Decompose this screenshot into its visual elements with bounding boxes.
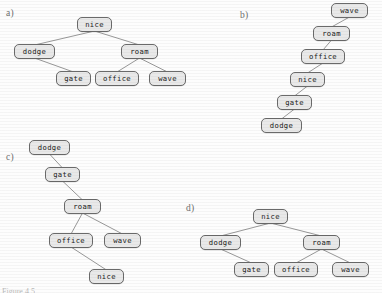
panel-label-c: c) xyxy=(6,152,14,162)
tree-node-a-gate: gate xyxy=(56,71,91,86)
tree-edge-c-office-nice xyxy=(71,247,107,270)
tree-edge-d-roam-wave xyxy=(322,249,351,263)
tree-node-d-gate: gate xyxy=(234,262,269,277)
tree-node-b-roam: roam xyxy=(313,26,350,41)
tree-edge-d-dodge-gate xyxy=(221,249,252,263)
panel-label-d: d) xyxy=(186,203,194,213)
tree-node-b-gate: gate xyxy=(277,95,312,110)
tree-node-c-dodge: dodge xyxy=(29,140,70,155)
tree-edge-c-roam-office xyxy=(71,213,83,234)
tree-node-a-nice: nice xyxy=(77,17,112,32)
tree-node-d-wave: wave xyxy=(332,262,369,277)
tree-edge-a-roam-office xyxy=(117,58,140,72)
figure-binary-search-trees: a)nicedodgeroamgateofficewaveb)waveroamo… xyxy=(0,0,382,293)
tree-node-c-gate: gate xyxy=(45,167,80,182)
tree-node-a-dodge: dodge xyxy=(14,44,55,59)
tree-node-b-dodge: dodge xyxy=(261,118,302,133)
tree-edge-a-dodge-gate xyxy=(35,58,74,72)
tree-edge-c-roam-wave xyxy=(83,213,123,234)
panel-label-b: b) xyxy=(240,10,248,20)
tree-edge-a-nice-dodge xyxy=(35,31,95,45)
tree-node-c-nice: nice xyxy=(89,269,124,284)
panel-label-a: a) xyxy=(6,8,14,18)
tree-node-b-office: office xyxy=(301,49,345,64)
tree-node-d-dodge: dodge xyxy=(200,235,241,250)
figure-caption: Figure 4.5 xyxy=(2,287,35,293)
tree-node-d-nice: nice xyxy=(253,209,288,224)
tree-node-b-nice: nice xyxy=(290,72,325,87)
tree-node-d-office: office xyxy=(274,262,318,277)
tree-node-a-roam: roam xyxy=(121,44,158,59)
tree-node-b-wave: wave xyxy=(331,3,368,18)
tree-node-a-wave: wave xyxy=(149,71,186,86)
tree-node-c-wave: wave xyxy=(104,233,141,248)
tree-edge-a-roam-wave xyxy=(140,58,168,72)
tree-node-c-office: office xyxy=(49,233,93,248)
tree-node-c-roam: roam xyxy=(64,199,101,214)
tree-edge-d-roam-office xyxy=(296,249,322,263)
tree-edge-a-nice-roam xyxy=(95,31,140,45)
tree-node-a-office: office xyxy=(95,71,139,86)
tree-node-d-roam: roam xyxy=(303,235,340,250)
tree-edge-c-gate-roam xyxy=(63,181,83,200)
tree-edge-c-dodge-gate xyxy=(50,154,63,168)
